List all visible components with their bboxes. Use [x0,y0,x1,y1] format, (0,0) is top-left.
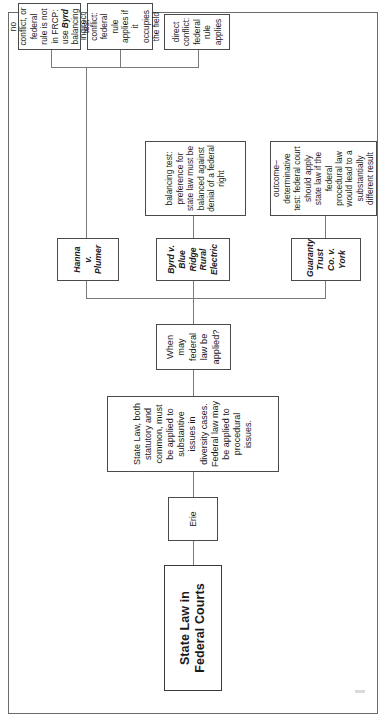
edge-erie-rule [193,472,194,498]
node-erie: Erie [168,497,218,541]
node-no-conflict-text-post: balancing test [70,9,90,45]
node-case-byrd: Byrd v. Blue Ridge Rural Electric [156,238,230,281]
node-balancing-test: balancing test: preference for state law… [145,141,246,216]
node-no-conflict-label: no conflict, or federal rule is not in F… [8,7,91,46]
node-root-label: State Law in Federal Courts [178,569,209,687]
edge-question-to-byrd [193,281,194,299]
node-case-byrd-label: Byrd v. Blue Ridge Rural Electric [166,242,219,277]
page-frame: State Law in Federal Courts Erie State L… [8,12,378,714]
node-no-conflict-citation: Byrd [60,9,70,28]
node-case-hanna-label: Hanna v. Plumer [72,242,104,277]
edge-byrd-balancing [193,216,194,238]
node-root-title: State Law in Federal Courts [164,565,222,691]
edge-rule-question [193,370,194,396]
node-case-guaranty-label: Guaranty Trust Co. v. York [305,242,348,277]
node-balancing-label: balancing test: preference for state law… [164,145,227,212]
node-outcome-label: outcome–determinative test: federal cour… [271,145,375,212]
edge-hanna-to-indirect [120,50,121,68]
node-direct-conflict: direct conflict: federal rule applies [164,14,230,50]
flowchart-canvas: State Law in Federal Courts Erie State L… [9,13,377,713]
edge-root-erie [193,541,194,565]
edge-hanna-riser [51,67,199,68]
edge-guaranty-outcome [325,216,326,238]
node-case-guaranty: Guaranty Trust Co. v. York [291,238,361,281]
node-question-label: When may federal law be applied? [165,328,222,366]
node-question: When may federal law be applied? [156,324,231,370]
node-erie-label: Erie [188,501,199,537]
node-direct-conflict-label: direct conflict: federal rule applies [171,18,223,46]
node-rule-statement: State Law, both statutory and common, mu… [107,396,279,472]
node-case-hanna: Hanna v. Plumer [57,238,119,281]
edge-hanna-to-direct [198,50,199,68]
edge-hanna-trunk [86,67,87,238]
node-indirect-conflict: indirect conflict: federal rule applies … [87,3,153,50]
edge-question-trunk [193,298,194,324]
node-no-conflict: no conflict, or federal rule is not in F… [18,3,81,50]
node-rule-label: State Law, both statutory and common, mu… [132,400,255,468]
edge-question-riser [86,298,325,299]
edge-hanna-to-noconflict [51,50,52,68]
edge-question-to-hanna [86,281,87,299]
edge-question-to-guaranty [325,281,326,299]
node-outcome-determinative-test: outcome–determinative test: federal cour… [270,141,377,216]
